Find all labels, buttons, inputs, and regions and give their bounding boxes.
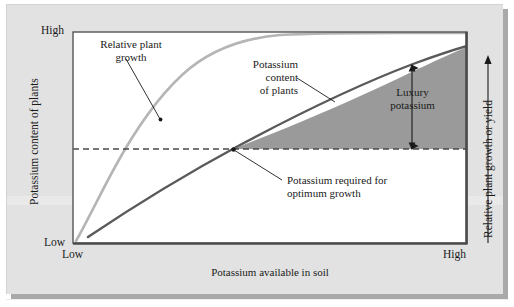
y-axis-high-tick-label: High <box>41 24 64 37</box>
leader-dot-relative-plant-growth <box>159 118 163 122</box>
y-axis-title: Potassium content of plants <box>28 78 41 205</box>
x-axis-low-tick-label: Low <box>62 248 83 261</box>
annotation-potassium-required: Potassium required for optimum growth <box>287 174 437 200</box>
leader-dot-potassium-required <box>231 147 235 151</box>
annotation-potassium-content: Potassium content of plants <box>225 58 298 97</box>
annotation-relative-plant-growth: Relative plant growth <box>76 38 186 64</box>
figure-container: High Low Potassium content of plants Low… <box>0 0 514 307</box>
right-axis-arrow-head <box>484 55 491 64</box>
annotation-luxury-potassium: Luxury potassium <box>375 86 450 112</box>
x-axis-high-tick-label: High <box>443 248 466 261</box>
y2-axis-title: Relative plant growth or yield <box>482 100 495 238</box>
x-axis-title: Potassium available in soil <box>190 266 350 279</box>
